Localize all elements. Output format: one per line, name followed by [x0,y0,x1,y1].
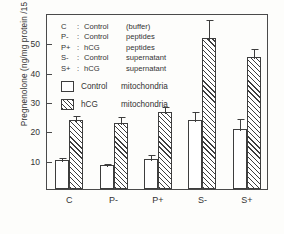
key-text-1: Control [84,22,126,32]
error-bar-cap [60,158,67,159]
error-bar [195,112,196,123]
error-bar [62,158,63,162]
y-tick [47,132,52,133]
error-bar [254,49,255,59]
error-bar-cap [118,117,125,118]
key-text-1: hCG [84,64,126,74]
y-tick-label: 10 [31,157,40,167]
key-symbol: P- [61,32,77,42]
key-text-1: Control [84,32,126,42]
series-legend: Control mitochondria hCG mitochondria [61,81,168,117]
legend-item-control: Control mitochondria [61,81,168,92]
bar-P--control [100,165,114,189]
y-tick-label: 50 [31,39,40,49]
y-tick-label: 40 [31,69,40,79]
key-colon: : [77,53,84,63]
key-symbol: C [61,22,77,32]
error-bar [151,155,152,161]
x-tick-label-P-: P- [109,195,118,205]
bar-S--hcg [202,38,216,189]
error-bar [209,20,210,40]
x-tick [247,184,248,189]
x-tick [202,184,203,189]
legend-label-1: hCG [81,100,121,109]
y-axis-title: Pregnenolone (ng/mg protein /15 min) [20,0,29,140]
x-tick-label-P+: P+ [152,195,163,205]
y-tick [47,74,52,75]
key-row: C : Control (buffer) [61,22,166,32]
y-tick-label: 30 [31,98,40,108]
x-tick [158,184,159,189]
key-text-2: peptides [126,43,155,53]
error-bar-cap [193,112,200,113]
x-tick [114,184,115,189]
key-row: S- : Control supernatant [61,53,166,63]
error-bar [240,119,241,131]
key-row: P- : Control peptides [61,32,166,42]
x-tick [69,184,70,189]
key-colon: : [77,32,84,42]
figure: Pregnenolone (ng/mg protein /15 min) 102… [0,0,284,234]
error-bar-cap [104,164,111,165]
key-text-2: (buffer) [126,22,150,32]
key-row: S+ : hCG supernatant [61,64,166,74]
error-bar-cap [237,119,244,120]
key-colon: : [77,43,84,53]
key-symbol: P+ [61,43,77,53]
error-bar [121,117,122,125]
abbreviation-key: C : Control (buffer) P- : Control peptid… [61,22,166,74]
key-colon: : [77,22,84,32]
legend-swatch-hatched [61,99,74,110]
y-tick [47,103,52,104]
y-tick [47,44,52,45]
bar-P+-control [144,159,158,189]
key-symbol: S+ [61,64,77,74]
key-symbol: S- [61,53,77,63]
error-bar-cap [207,20,214,21]
legend-swatch-open [61,81,74,92]
bar-S--control [188,120,202,189]
y-tick [47,162,52,163]
bar-C-control [55,160,69,189]
bar-P+-hcg [158,112,172,189]
y-tick-label: 20 [31,127,40,137]
bar-S+-hcg [247,57,261,189]
error-bar [107,164,108,167]
bar-C-hcg [69,120,83,189]
legend-item-hcg: hCG mitochondria [61,99,168,110]
legend-label-2: mitochondria [121,100,168,109]
key-text-1: Control [84,53,126,63]
x-tick-label-C: C [66,195,73,205]
key-colon: : [77,64,84,74]
legend-label-2: mitochondria [121,82,168,91]
key-text-2: peptides [126,32,155,42]
x-tick-label-S+: S+ [241,195,252,205]
error-bar-cap [251,49,258,50]
key-row: P+ : hCG peptides [61,43,166,53]
plot-area: 1020304050CP-P+S-S+ C : Control (buffer)… [46,14,268,190]
error-bar-cap [149,155,156,156]
key-text-1: hCG [84,43,126,53]
key-text-2: supernatant [126,53,166,63]
x-tick-label-S-: S- [198,195,207,205]
key-text-2: supernatant [126,64,166,74]
bar-P--hcg [114,123,128,189]
legend-label-1: Control [81,82,121,91]
bar-S+-control [233,129,247,189]
